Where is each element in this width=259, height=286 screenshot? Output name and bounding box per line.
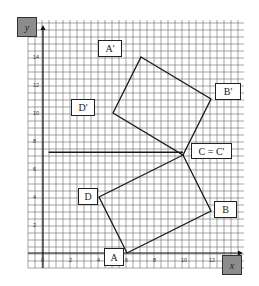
y-axis-arrow-icon: [41, 25, 46, 30]
label-c-equals-c-prime: C = C': [191, 143, 232, 159]
label-b-prime: B': [215, 83, 241, 100]
x-tick-label: 2: [69, 257, 72, 263]
y-tick-label: 12: [33, 82, 39, 88]
label-a-prime: A': [98, 40, 122, 57]
x-tick-label: 4: [97, 257, 100, 263]
y-tick-label: 2: [33, 222, 36, 228]
x-tick-label: 0: [41, 257, 44, 263]
y-tick-label: 4: [33, 194, 36, 200]
label-b: B: [214, 201, 237, 218]
x-tick-label: 12: [209, 257, 215, 263]
x-tick-label: 10: [181, 257, 187, 263]
x-axis-label: x: [222, 255, 242, 275]
y-axis-label: y: [17, 17, 37, 37]
y-tick-label: 6: [33, 166, 36, 172]
x-tick-label: 8: [153, 257, 156, 263]
label-d-prime: D': [71, 99, 95, 116]
y-tick-label: 10: [33, 110, 39, 116]
label-a: A: [104, 248, 124, 266]
shapes: [49, 57, 211, 253]
y-tick-label: 8: [33, 138, 36, 144]
label-d: D: [78, 188, 98, 205]
x-tick-label: 6: [125, 257, 128, 263]
y-tick-label: 14: [33, 54, 39, 60]
